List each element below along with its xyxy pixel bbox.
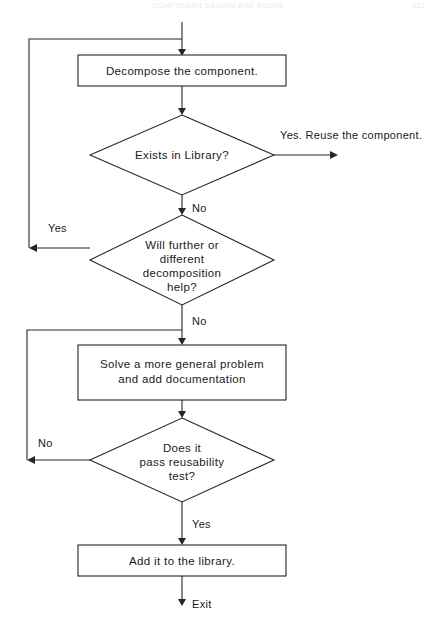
node-solve-label-0: Solve a more general problem: [100, 358, 264, 370]
edge-label-yes-test: Yes: [192, 518, 211, 530]
node-add-to-library[interactable]: Add it to the library.: [78, 545, 286, 576]
node-test-label-0: Does it: [163, 442, 202, 454]
node-further-decomposition[interactable]: Will further or different decomposition …: [90, 215, 274, 305]
arrowhead-decompose-to-exists: [178, 108, 186, 115]
node-exists-in-library[interactable]: Exists in Library?: [90, 115, 274, 195]
node-further-label-1: different: [160, 253, 205, 265]
edge-label-exit: Exit: [192, 598, 212, 610]
arrowhead-exit: [178, 599, 186, 606]
node-decompose-the-component[interactable]: Decompose the component.: [78, 55, 286, 86]
flowchart-canvas: Decompose the component. Exists in Libra…: [0, 0, 446, 619]
arrowhead-solve-to-test: [178, 411, 186, 418]
flowchart-page: COMPONENT DESIGN AND REUSE 321: [0, 0, 446, 619]
edge-label-yes-further: Yes: [48, 222, 67, 234]
node-reusability-test[interactable]: Does it pass reusability test?: [90, 418, 274, 502]
node-exists-label-0: Exists in Library?: [135, 149, 229, 161]
arrowhead-test-no: [27, 456, 35, 464]
arrowhead-test-yes: [178, 538, 186, 545]
edge-label-no-further: No: [192, 315, 207, 327]
edge-label-no-test: No: [38, 437, 53, 449]
edge-label-reuse-component: Yes. Reuse the component.: [280, 129, 422, 141]
node-solve-general-problem[interactable]: Solve a more general problem and add doc…: [78, 345, 286, 400]
edge-label-no-exists: No: [192, 202, 207, 214]
arrowhead-exists-no: [178, 208, 186, 215]
node-decompose-label-0: Decompose the component.: [106, 65, 258, 77]
node-further-label-0: Will further or: [145, 239, 219, 251]
node-solve-label-1: and add documentation: [118, 373, 246, 385]
node-test-label-1: pass reusability: [140, 456, 225, 468]
node-add-library-label-0: Add it to the library.: [129, 555, 235, 567]
node-test-label-2: test?: [169, 470, 196, 482]
arrowhead-further-yes: [29, 244, 37, 252]
arrowhead-further-no: [178, 338, 186, 345]
node-further-label-3: help?: [167, 281, 197, 293]
arrowhead-exists-yes: [330, 151, 338, 159]
node-further-label-2: decomposition: [143, 267, 222, 279]
